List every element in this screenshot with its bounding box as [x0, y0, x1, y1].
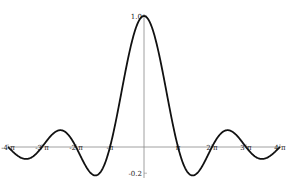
sinc-chart: -4 π-3 π-2 π-ππ2 π3 π4 π1.0-0.2 — [0, 0, 288, 189]
y-tick-label: -0.2 — [129, 170, 143, 178]
